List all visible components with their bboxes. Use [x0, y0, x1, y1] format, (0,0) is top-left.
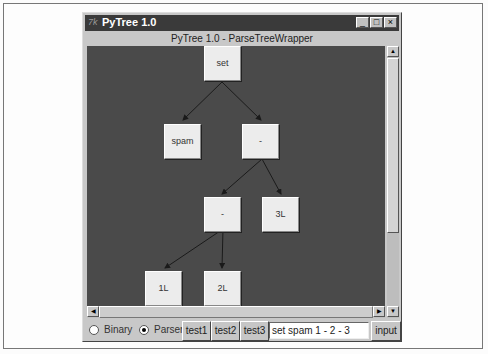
radio-parser[interactable]: Parser	[139, 324, 183, 335]
tree-canvas[interactable]: set spam - - 3L 1L 2L	[87, 46, 385, 306]
radio-binary-label: Binary	[104, 324, 132, 335]
vertical-scrollbar[interactable]: ▲ ▼	[387, 46, 399, 318]
expression-input[interactable]: set spam 1 - 2 - 3	[269, 322, 369, 339]
tree-node-root[interactable]: set	[204, 46, 241, 81]
input-button[interactable]: input	[371, 321, 401, 341]
pytree-window: 7k PyTree 1.0 _ □ × PyTree 1.0 - ParseTr…	[82, 12, 402, 342]
horizontal-scroll-thumb[interactable]	[99, 306, 373, 318]
tree-node[interactable]: 3L	[262, 197, 299, 232]
test2-button[interactable]: test2	[211, 321, 240, 341]
close-button[interactable]: ×	[384, 17, 397, 28]
vertical-scroll-thumb[interactable]	[387, 58, 399, 233]
window-title: PyTree 1.0	[102, 16, 156, 28]
radio-indicator[interactable]	[89, 325, 99, 335]
scroll-up-icon[interactable]: ▲	[387, 46, 399, 57]
tree-node[interactable]: -	[242, 124, 279, 159]
test3-button[interactable]: test3	[240, 321, 269, 341]
horizontal-scrollbar[interactable]: ◀ ▶	[87, 306, 385, 318]
maximize-button[interactable]: □	[370, 17, 383, 28]
radio-indicator-selected[interactable]	[139, 325, 149, 335]
tree-label: PyTree 1.0 - ParseTreeWrapper	[85, 31, 399, 46]
test1-button[interactable]: test1	[182, 321, 211, 341]
minimize-button[interactable]: _	[356, 17, 369, 28]
tree-node[interactable]: spam	[164, 124, 201, 159]
radio-binary[interactable]: Binary	[89, 324, 132, 335]
tree-edges	[87, 46, 385, 306]
control-bar: Binary Parser test1 test2 test3 set spam…	[87, 319, 401, 341]
scroll-right-icon[interactable]: ▶	[373, 306, 385, 317]
scroll-down-icon[interactable]: ▼	[387, 306, 399, 317]
tree-node[interactable]: 1L	[145, 271, 182, 306]
title-bar[interactable]: 7k PyTree 1.0 _ □ ×	[85, 15, 399, 31]
tree-node[interactable]: 2L	[204, 271, 241, 306]
radio-parser-label: Parser	[154, 324, 183, 335]
tree-node[interactable]: -	[204, 197, 241, 232]
scroll-left-icon[interactable]: ◀	[87, 306, 99, 317]
tk-icon: 7k	[88, 17, 98, 27]
